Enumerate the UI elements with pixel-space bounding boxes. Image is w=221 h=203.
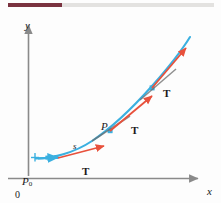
p0-cross-mark: [31, 153, 39, 162]
tangent-vector-3: [152, 48, 186, 88]
tangent-label-1: T: [82, 166, 89, 177]
tangent-line-upper: [140, 69, 176, 100]
arc-length-label: s: [73, 142, 77, 151]
figure-svg: [0, 8, 221, 203]
x-axis-label: x: [207, 186, 212, 197]
y-axis-label: y: [25, 20, 30, 31]
curve-point-marker: [54, 155, 58, 159]
math-figure: y x 0 P0 s P T T T: [0, 8, 221, 203]
top-rule-accent: [8, 3, 62, 7]
tangent-label-2: T: [131, 125, 138, 136]
point-p-label: P: [101, 121, 108, 132]
origin-label: 0: [15, 190, 20, 200]
tangent-label-3: T: [163, 88, 170, 99]
point-p0-letter: P: [22, 175, 29, 187]
point-p0-label: P0: [22, 176, 32, 188]
page-root: y x 0 P0 s P T T T: [0, 0, 221, 203]
curve-point-marker: [45, 156, 49, 160]
point-p0-subscript: 0: [29, 180, 33, 188]
